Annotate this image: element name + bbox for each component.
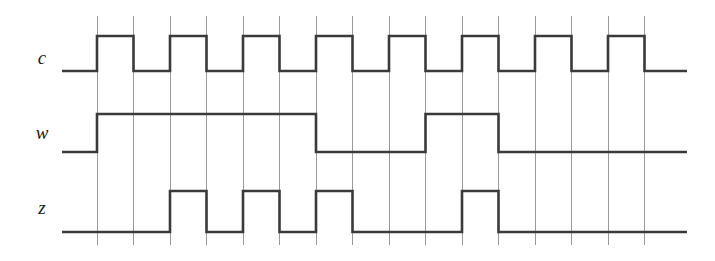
signal-label-w: w [36, 122, 49, 143]
timing-diagram-canvas: cwz [0, 0, 715, 261]
waveforms-group [62, 36, 687, 232]
waveform-c [62, 36, 687, 71]
signal-labels-group: cwz [36, 47, 49, 218]
waveform-w [62, 114, 687, 152]
waveform-z [62, 191, 687, 232]
signal-label-z: z [37, 197, 46, 218]
gridlines-group [97, 16, 645, 245]
signal-label-c: c [38, 47, 47, 68]
timing-diagram-figure: cwz [0, 0, 715, 261]
